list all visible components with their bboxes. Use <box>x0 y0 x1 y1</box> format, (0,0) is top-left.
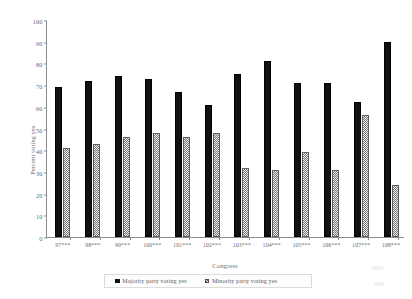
plot-area: 0102030405060708090100 97***98***99***10… <box>46 21 404 238</box>
bar-minority-party <box>123 137 130 237</box>
bar-group: 105*** <box>292 21 312 237</box>
bar-group: 97*** <box>53 21 73 237</box>
bar-minority-party <box>302 152 309 237</box>
x-axis-tick-mark <box>100 237 101 240</box>
x-axis-tick-label: 105*** <box>292 242 310 248</box>
bar-minority-party <box>392 185 399 237</box>
x-axis-tick-mark <box>398 237 399 240</box>
bar-group: 107*** <box>351 21 371 237</box>
bar-majority-party <box>175 92 182 237</box>
x-axis-tick-label: 104*** <box>263 242 281 248</box>
x-axis-title: Congress <box>46 262 404 269</box>
bars-layer: 97***98***99***100***101***102***103***1… <box>47 21 404 237</box>
bar-minority-party <box>213 133 220 237</box>
x-axis-tick-label: 106*** <box>322 242 340 248</box>
x-axis-tick-mark <box>70 237 71 240</box>
checkered-square-icon <box>205 279 210 284</box>
y-axis-tick-mark <box>44 238 47 239</box>
x-axis-tick-mark <box>368 237 369 240</box>
solid-black-square-icon <box>115 279 120 284</box>
bar-minority-party <box>362 115 369 237</box>
x-axis-tick-mark <box>279 237 280 240</box>
bar-majority-party <box>294 83 301 237</box>
legend-entry: Majority party voting yes <box>115 278 187 284</box>
legend-label: Majority party voting yes <box>122 278 187 284</box>
x-axis-tick-mark <box>338 237 339 240</box>
x-axis-tick-label: 98*** <box>85 242 100 248</box>
legend-entry: Minority party voting yes <box>205 278 277 284</box>
bar-group: 101*** <box>172 21 192 237</box>
bar-majority-party <box>384 42 391 237</box>
bar-minority-party <box>332 170 339 237</box>
bar-group: 104*** <box>262 21 282 237</box>
bar-group: 106*** <box>321 21 341 237</box>
bar-minority-party <box>93 144 100 237</box>
legend-label: Minority party voting yes <box>212 278 277 284</box>
x-axis-tick-label: 107*** <box>352 242 370 248</box>
bar-majority-party <box>205 105 212 237</box>
bar-minority-party <box>63 148 70 237</box>
x-axis-tick-mark <box>249 237 250 240</box>
bar-majority-party <box>354 102 361 237</box>
chart-legend: Majority party voting yesMinority party … <box>104 274 312 288</box>
bar-minority-party <box>242 168 249 237</box>
bar-group: 99*** <box>113 21 133 237</box>
x-axis-tick-label: 102*** <box>203 242 221 248</box>
x-axis-tick-label: 101*** <box>173 242 191 248</box>
x-axis-tick-label: 103*** <box>233 242 251 248</box>
bar-majority-party <box>264 61 271 237</box>
x-axis-tick-label: 99*** <box>115 242 130 248</box>
bar-minority-party <box>183 137 190 237</box>
bar-majority-party <box>55 87 62 237</box>
bar-group: 98*** <box>83 21 103 237</box>
x-axis-tick-mark <box>219 237 220 240</box>
bar-majority-party <box>85 81 92 237</box>
x-axis-tick-label: 100*** <box>143 242 161 248</box>
bar-group: 103*** <box>232 21 252 237</box>
x-axis-tick-mark <box>189 237 190 240</box>
bar-group: 100*** <box>142 21 162 237</box>
bar-group: 108*** <box>381 21 401 237</box>
x-axis-tick-mark <box>159 237 160 240</box>
x-axis-tick-mark <box>309 237 310 240</box>
scan-artifact <box>374 282 384 286</box>
bar-majority-party <box>234 74 241 237</box>
bar-majority-party <box>145 79 152 237</box>
bar-minority-party <box>272 170 279 237</box>
x-axis-tick-label: 97*** <box>55 242 70 248</box>
bar-majority-party <box>115 76 122 237</box>
bar-chart-figure: Percent voting yes 010203040506070809010… <box>0 0 412 299</box>
x-axis-tick-mark <box>130 237 131 240</box>
bar-majority-party <box>324 83 331 237</box>
bar-group: 102*** <box>202 21 222 237</box>
x-axis-tick-label: 108*** <box>382 242 400 248</box>
bar-minority-party <box>153 133 160 237</box>
